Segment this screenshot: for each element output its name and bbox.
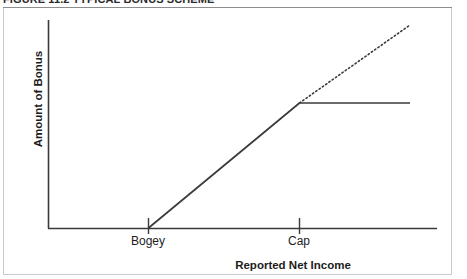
x-tick-label-bogey: Bogey <box>118 234 178 248</box>
x-axis-title: Reported Net Income <box>148 259 438 271</box>
chart-plot-area: Amount of Bonus Reported Net Income Boge… <box>0 0 467 279</box>
figure-container: FIGURE 11.2 TYPICAL BONUS SCHEME Amount … <box>0 0 467 279</box>
uncapped-extrapolation-line <box>300 25 411 103</box>
bonus-scheme-chart-svg <box>0 0 467 279</box>
y-axis-title: Amount of Bonus <box>32 39 44 159</box>
x-tick-label-cap: Cap <box>269 234 329 248</box>
bonus-rising-line <box>149 103 300 228</box>
